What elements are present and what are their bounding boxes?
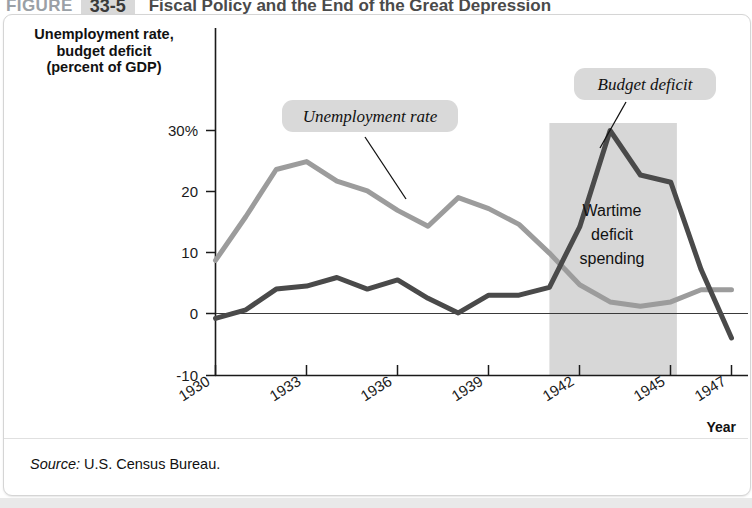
- y-tick-label-20: 20: [181, 183, 198, 200]
- deficit-callout-label: Budget deficit: [598, 75, 694, 94]
- x-axis-tick-labels: 1930 1933 1936 1939 1942 1945 1947: [175, 372, 728, 404]
- y-tick-label-10: 10: [181, 244, 198, 261]
- deficit-callout: Budget deficit: [574, 68, 716, 100]
- x-tick-label-1936: 1936: [357, 372, 394, 404]
- source-note: Source: U.S. Census Bureau.: [30, 456, 220, 472]
- wartime-annotation-line-2: deficit: [591, 226, 633, 243]
- x-axis-label: Year: [706, 419, 736, 435]
- source-text: U.S. Census Bureau.: [80, 456, 220, 472]
- x-tick-label-1947: 1947: [691, 372, 728, 404]
- wartime-annotation-line-1: Wartime: [583, 202, 642, 219]
- y-tick-label-30: 30%: [168, 122, 198, 139]
- x-tick-label-1942: 1942: [539, 372, 576, 404]
- x-tick-label-1945: 1945: [630, 372, 667, 404]
- unemployment-callout: Unemployment rate: [282, 100, 458, 132]
- unemployment-callout-leader: [365, 137, 406, 199]
- source-prefix: Source:: [30, 456, 80, 472]
- footer-divider: [4, 438, 748, 439]
- x-tick-label-1939: 1939: [448, 372, 485, 404]
- page-bottom-band: [0, 498, 752, 508]
- x-tick-label-1933: 1933: [266, 372, 303, 404]
- chart-plot-area: 30% 20 10 0 -10 1930 1933 1936 1939 1942…: [0, 0, 752, 508]
- y-axis-ticks: [206, 131, 216, 376]
- wartime-annotation-line-3: spending: [580, 250, 645, 267]
- y-tick-label-0: 0: [190, 305, 198, 322]
- unemployment-callout-label: Unemployment rate: [303, 107, 438, 126]
